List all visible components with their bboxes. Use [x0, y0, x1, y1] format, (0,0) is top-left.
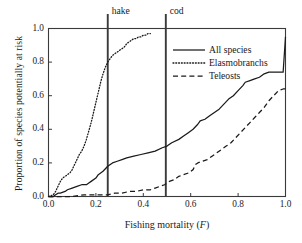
x-tick-label: 0.4 [126, 199, 160, 209]
x-tick-0.6: 0.6 [174, 199, 208, 209]
y-tick-0.4: 0.4 [18, 124, 44, 125]
legend-label-elasmobranchs: Elasmobranchs [209, 58, 268, 68]
y-tick-label: 0.6 [18, 91, 44, 100]
x-axis-label-close: ) [206, 219, 209, 230]
x-tick-label: 0.2 [79, 199, 113, 209]
x-tick-0.4: 0.4 [126, 199, 160, 209]
annotation-label-hake: hake [112, 6, 130, 16]
y-tick-0.8: 0.8 [18, 57, 44, 58]
x-tick-0.0: 0.0 [32, 199, 66, 209]
x-tick-1.0: 1.0 [269, 199, 302, 209]
y-tick-label: 0.4 [18, 124, 44, 133]
x-tick-label: 0.0 [32, 199, 66, 209]
annotation-lines [108, 14, 166, 197]
y-tick-label: 0.8 [18, 57, 44, 66]
y-tick-1.0: 1.0 [18, 24, 44, 25]
x-tick-0.2: 0.2 [79, 199, 113, 209]
x-tick-label: 0.8 [221, 199, 255, 209]
annotation-label-cod: cod [170, 6, 184, 16]
y-tick-label: 0.2 [18, 158, 44, 167]
figure-container: Proportion of species potentially at ris… [0, 0, 301, 243]
x-axis-label-main: Fishing mortality ( [125, 219, 200, 230]
legend-line-samples [173, 50, 205, 76]
series-line-elasmobranchs [49, 34, 151, 197]
x-tick-0.8: 0.8 [221, 199, 255, 209]
y-tick-label: 1.0 [18, 24, 44, 33]
series-line-teleosts [49, 89, 286, 197]
y-tick-0.6: 0.6 [18, 91, 44, 92]
legend-label-all-species: All species [209, 45, 251, 55]
x-tick-label: 1.0 [269, 199, 302, 209]
y-axis-label: Proportion of species potentially at ris… [13, 24, 24, 204]
x-axis-label: Fishing mortality (F) [48, 219, 286, 230]
y-tick-0.2: 0.2 [18, 158, 44, 159]
x-tick-label: 0.6 [174, 199, 208, 209]
y-tick-0.0: 0.0 [18, 192, 44, 193]
legend-label-teleosts: Teleosts [209, 71, 240, 81]
